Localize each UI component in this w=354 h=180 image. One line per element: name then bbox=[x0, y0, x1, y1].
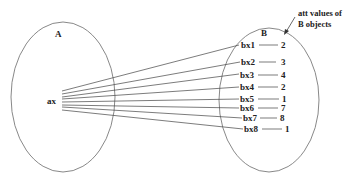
connector-lines bbox=[62, 45, 243, 129]
value-6: 7 bbox=[281, 103, 286, 113]
set-b-label: B bbox=[261, 28, 267, 38]
value-3: 4 bbox=[281, 70, 286, 80]
value-2: 3 bbox=[281, 57, 286, 67]
value-connectors bbox=[258, 45, 282, 129]
bx4-label: bx4 bbox=[240, 82, 255, 92]
element-ax-label: ax bbox=[47, 96, 57, 106]
bx1-label: bx1 bbox=[241, 40, 256, 50]
bx7-label: bx7 bbox=[243, 113, 258, 123]
value-1: 2 bbox=[281, 40, 286, 50]
bx8-label: bx8 bbox=[244, 124, 259, 134]
bx2-label: bx2 bbox=[241, 57, 256, 67]
mapping-diagram: A ax B att values of B objects bx1 bx2 b… bbox=[0, 0, 354, 180]
value-8: 1 bbox=[285, 124, 290, 134]
set-b-ellipse bbox=[219, 28, 319, 172]
set-a-label: A bbox=[55, 29, 62, 39]
value-7: 8 bbox=[280, 113, 285, 123]
annotation-line-2: B objects bbox=[298, 19, 332, 29]
annotation-line-1: att values of bbox=[298, 8, 342, 18]
annotation-arrow-icon bbox=[284, 17, 295, 35]
value-4: 2 bbox=[281, 82, 286, 92]
bx3-label: bx3 bbox=[240, 70, 255, 80]
bx6-label: bx6 bbox=[240, 103, 255, 113]
